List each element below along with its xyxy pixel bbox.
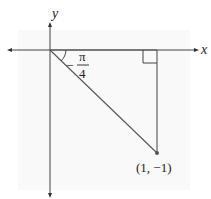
point-label: (1, −1) [136,160,172,175]
point-marker [155,151,159,155]
y-axis-bottom-arrow-icon [48,193,52,198]
y-axis-top-arrow-icon [48,22,52,27]
x-axis-left-arrow-icon [7,48,12,52]
angle-denominator: 4 [79,66,86,81]
x-axis-label: x [200,42,208,57]
x-axis-right-arrow-icon [194,48,199,52]
y-axis-label: y [50,6,59,21]
diagram-canvas: x y − π 4 (1, −1) [0,0,211,199]
angle-numerator: π [79,49,86,64]
angle-sign: − [66,58,73,73]
